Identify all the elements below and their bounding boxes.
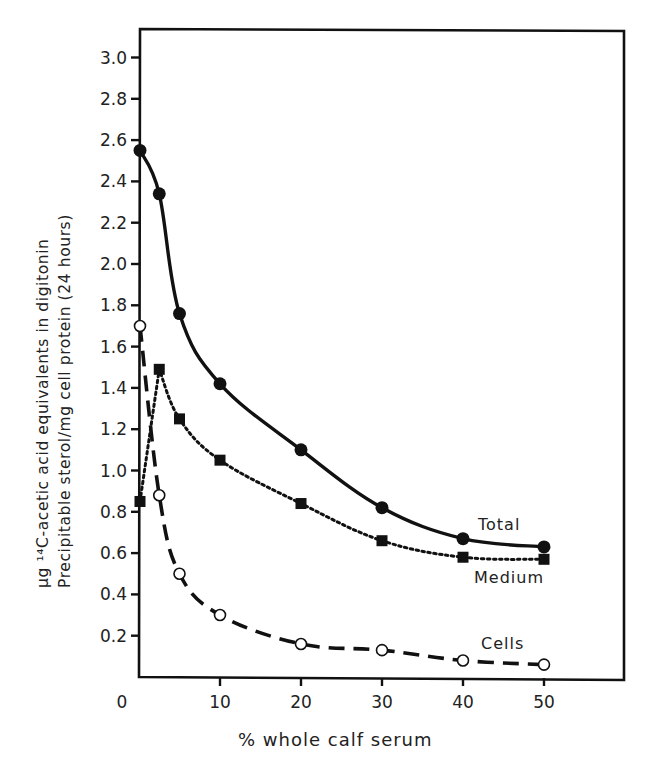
x-axis-title: % whole calf serum: [238, 729, 433, 750]
marker-medium: [377, 535, 388, 546]
y-tick-label: 2.2: [100, 213, 127, 233]
x-tick-label: 50: [533, 692, 555, 712]
curve-total: [140, 150, 544, 546]
marker-medium: [174, 413, 185, 424]
marker-medium: [458, 552, 469, 563]
y-tick-label: 0.4: [100, 584, 127, 604]
marker-cells: [215, 610, 226, 621]
marker-medium: [135, 496, 146, 507]
x-tick-label: 20: [290, 692, 312, 712]
y-tick-label: 1.4: [100, 378, 127, 398]
marker-cells: [135, 320, 146, 331]
y-tick-label: 2.6: [100, 130, 127, 150]
x-axis-ticks: 01020304050: [117, 678, 555, 712]
marker-total: [295, 443, 308, 456]
y-axis-ticks: 0.20.40.60.81.01.21.41.61.82.02.22.42.62…: [100, 48, 140, 646]
y-tick-label: 1.0: [100, 461, 127, 481]
y-tick-label: 0.8: [100, 502, 127, 522]
series-label-medium: Medium: [474, 568, 544, 587]
series-label-total: Total: [477, 515, 520, 534]
plot-frame: [139, 29, 624, 680]
marker-total: [134, 144, 147, 157]
y-axis-title-line1: μg ¹⁴C-acetic acid equivalents in digito…: [34, 238, 52, 588]
y-tick-label: 2.4: [100, 171, 127, 191]
marker-total: [538, 540, 551, 553]
marker-cells: [377, 645, 388, 656]
x-tick-label: 30: [371, 692, 393, 712]
marker-total: [457, 532, 470, 545]
y-tick-label: 1.2: [100, 419, 127, 439]
marker-cells: [174, 568, 185, 579]
y-tick-label: 2.8: [100, 89, 127, 109]
marker-cells: [154, 490, 165, 501]
marker-total: [173, 307, 186, 320]
y-tick-label: 1.6: [100, 337, 127, 357]
marker-medium: [215, 455, 226, 466]
y-axis-title-line2: Precipitable sterol/mg cell protein (24 …: [56, 214, 74, 588]
marker-total: [214, 377, 227, 390]
y-tick-label: 0.2: [100, 626, 127, 646]
marker-cells: [539, 659, 550, 670]
marker-total: [153, 187, 166, 200]
y-tick-label: 2.0: [100, 254, 127, 274]
x-tick-label: 0: [117, 692, 128, 712]
x-tick-label: 40: [452, 692, 474, 712]
marker-cells: [458, 655, 469, 666]
marker-medium: [296, 498, 307, 509]
y-tick-label: 0.6: [100, 543, 127, 563]
series-label-cells: Cells: [481, 634, 524, 653]
y-tick-label: 3.0: [100, 48, 127, 68]
marker-cells: [296, 638, 307, 649]
x-tick-label: 10: [209, 692, 231, 712]
series-curves: [140, 150, 544, 664]
chart: 0.20.40.60.81.01.21.41.61.82.02.22.42.62…: [0, 0, 648, 769]
y-tick-label: 1.8: [100, 295, 127, 315]
marker-medium: [539, 554, 550, 565]
curve-cells: [140, 326, 544, 665]
marker-medium: [154, 364, 165, 375]
marker-total: [376, 501, 389, 514]
series-markers: [134, 144, 551, 670]
